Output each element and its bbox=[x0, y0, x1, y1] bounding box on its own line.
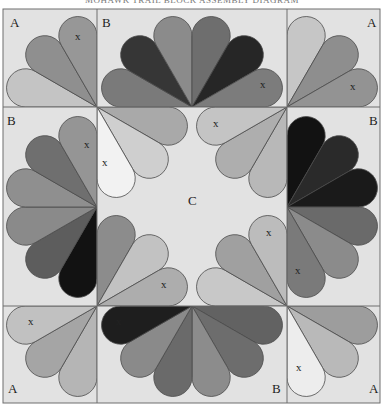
x-mark: x bbox=[84, 138, 90, 150]
x-mark: x bbox=[296, 361, 302, 373]
x-mark: x bbox=[260, 78, 266, 90]
x-mark: x bbox=[213, 117, 219, 129]
block-label-bottom-center: B bbox=[272, 381, 281, 396]
block-label-top-right: A bbox=[367, 15, 377, 30]
x-mark: x bbox=[350, 80, 356, 92]
block-label-top-left: A bbox=[10, 15, 20, 30]
x-mark: x bbox=[116, 315, 122, 327]
x-mark: x bbox=[266, 226, 272, 238]
block-label-bottom-left: A bbox=[8, 381, 18, 396]
x-mark: x bbox=[161, 278, 167, 290]
block-label-middle-right: B bbox=[369, 113, 378, 128]
x-mark: x bbox=[75, 30, 81, 42]
block-label-middle-left: B bbox=[7, 113, 16, 128]
x-mark: x bbox=[28, 315, 34, 327]
block-label-top-center: B bbox=[102, 15, 111, 30]
x-mark: x bbox=[295, 264, 301, 276]
block-label-bottom-right: A bbox=[369, 381, 379, 396]
block-label-center: C bbox=[188, 193, 197, 208]
quilt-assembly-diagram: ABABCBABA xxxxxxxxxxxx bbox=[0, 0, 384, 406]
x-mark: x bbox=[102, 156, 108, 168]
